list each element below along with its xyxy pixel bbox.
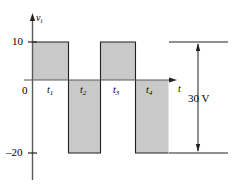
pulse-high-1	[33, 42, 69, 80]
x-tick-label-t2: t2	[80, 85, 86, 95]
waveform-figure: vi 10 –20 0 t1 t2 t3 t4 t 30 V	[0, 0, 232, 187]
y-axis-label: vi	[36, 13, 42, 23]
y-tick-label-10: 10	[12, 36, 23, 47]
origin-label: 0	[22, 85, 28, 96]
dimension-arrowhead-top	[196, 43, 200, 51]
y-tick-label-neg20: –20	[6, 147, 23, 158]
y-axis-arrowhead	[30, 13, 35, 21]
dimension-label: 30 V	[188, 93, 210, 104]
pulse-high-2	[101, 42, 136, 80]
x-tick-label-t1: t1	[47, 85, 53, 95]
x-tick-label-t4: t4	[146, 85, 152, 95]
x-axis-label: t	[178, 84, 181, 94]
x-tick-label-t3: t3	[113, 85, 119, 95]
dimension-arrowhead-bottom	[196, 144, 200, 152]
x-axis-arrowhead	[169, 78, 177, 83]
